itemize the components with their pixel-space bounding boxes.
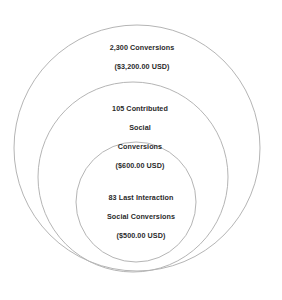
inner-label-count: 83 Last Interaction <box>0 193 282 203</box>
middle-label-conversions: Conversions <box>0 142 281 152</box>
middle-label-count: 105 Contributed <box>0 104 281 114</box>
outer-label-count: 2,300 Conversions <box>1 43 282 53</box>
outer-label-amount: ($3,200.00 USD) <box>1 62 282 72</box>
inner-label-amount: ($500.00 USD) <box>0 231 282 241</box>
inner-label-conversions: Social Conversions <box>0 212 282 222</box>
outer-circle-label: 2,300 Conversions ($3,200.00 USD) <box>1 33 282 81</box>
nested-circles-diagram: 2,300 Conversions ($3,200.00 USD) 105 Co… <box>0 0 282 300</box>
middle-label-amount: ($600.00 USD) <box>0 161 281 171</box>
middle-circle-label: 105 Contributed Social Conversions ($600… <box>0 94 281 180</box>
middle-label-social: Social <box>0 123 281 133</box>
inner-circle-label: 83 Last Interaction Social Conversions (… <box>0 183 282 250</box>
